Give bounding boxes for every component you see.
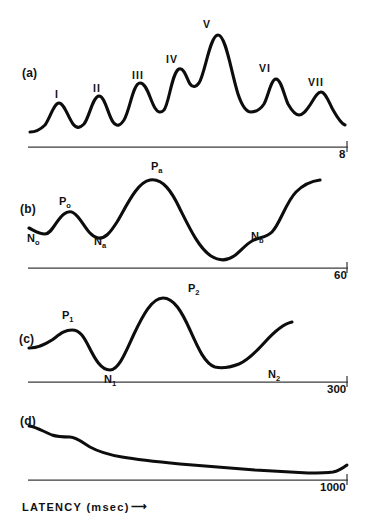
panel-d-letter: (d) [20,414,36,428]
panel-c: (c) P1 N1 P2 N2 300 [0,282,374,400]
panel-d-tick-label: 1000 [320,481,346,493]
panel-c-plot [0,282,374,400]
component-label-n0-sub: o [35,238,40,247]
component-label-n1-text: N [104,373,112,385]
wave-label-ii: II [93,82,101,94]
component-label-n1-sub: 1 [112,379,116,388]
component-label-p2: P2 [188,282,200,294]
component-label-p2-sub: 2 [195,288,199,297]
wave-label-v: V [203,18,211,30]
component-label-p0-sub: o [66,201,71,210]
wave-label-i: I [55,88,59,100]
right-arrow-icon: ⟶ [131,500,148,513]
latency-axis-caption: LATENCY (msec)⟶ [22,500,148,513]
component-label-n2-sub: 2 [276,374,280,383]
panel-b-waveform [29,180,320,260]
component-label-pa-sub: a [158,166,162,175]
component-label-n2-text: N [268,368,276,380]
panel-b-plot [0,160,374,285]
panel-b: (b) No Po Na Pa Nb 60 [0,160,374,285]
wave-label-vii: VII [308,76,324,88]
panel-b-tick-label: 60 [334,269,347,281]
component-label-nb-sub: b [259,236,264,245]
panel-c-letter: (c) [19,332,34,346]
wave-label-iv: IV [166,53,178,65]
component-label-nb: Nb [251,230,264,242]
panel-b-letter: (b) [20,202,36,216]
component-label-n1: N1 [104,373,116,385]
component-label-na: Na [94,235,106,247]
panel-d: (d) 1000 [0,398,374,498]
latency-axis-caption-text: LATENCY (msec) [22,501,130,513]
panel-a: (a) I II III IV V VI VII 8 [0,0,374,165]
panel-a-tick-label: 8 [339,148,345,160]
panel-d-waveform [29,426,347,473]
wave-label-iii: III [132,69,144,81]
component-label-na-sub: a [102,241,106,250]
component-label-n2: N2 [268,368,280,380]
panel-c-tick-label: 300 [327,383,346,395]
component-label-n0-text: N [27,232,35,244]
component-label-nb-text: N [251,230,259,242]
component-label-p1: P1 [62,309,74,321]
panel-a-waveform [30,35,345,132]
component-label-n0: No [27,232,40,244]
panel-a-letter: (a) [22,66,37,80]
evoked-potential-figure: (a) I II III IV V VI VII 8 (b) No Po Na … [0,0,374,530]
wave-label-vi: VI [259,62,271,74]
panel-d-plot [0,398,374,498]
component-label-p0: Po [59,195,71,207]
component-label-p1-sub: 1 [69,315,73,324]
component-label-na-text: N [94,235,102,247]
component-label-pa: Pa [151,160,163,172]
